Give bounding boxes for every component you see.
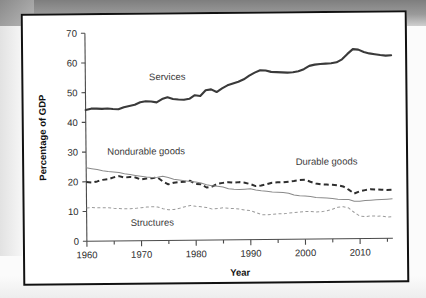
annotation-structures: Structures [131,217,175,228]
annotation-services: Services [149,71,186,82]
y-tick-label: 0 [74,236,79,247]
y-tick-label: 30 [67,147,78,158]
y-tick-label: 70 [66,28,77,39]
y-tick-label: 50 [67,87,78,98]
y-axis-title: Percentage of GDP [36,94,48,181]
figure-frame: 010203040506070 196019701980199020002010… [21,10,410,286]
y-tick-label: 40 [67,117,78,128]
x-tick-label: 1960 [76,249,97,260]
data-series-group [85,49,393,220]
annotation-durable-goods: Durable goods [296,155,358,167]
x-tick-label: 2000 [295,247,316,258]
y-tick-label: 60 [67,57,78,68]
series-line-nondurable-goods [86,165,392,204]
x-tick-label: 1990 [240,248,261,259]
x-axis-ticks: 196019701980199020002010 [76,238,387,260]
chart-plot-area: 010203040506070 196019701980199020002010… [23,12,408,284]
y-tick-label: 10 [68,206,79,217]
y-axis-ticks: 010203040506070 [66,28,87,247]
y-tick-label: 20 [68,176,79,187]
x-axis-title: Year [230,267,250,278]
y-axis-line [85,33,87,241]
x-tick-label: 1980 [186,248,207,259]
x-axis-line [87,238,393,241]
series-line-services [85,49,392,110]
x-tick-label: 2010 [350,247,371,258]
annotation-nondurable-goods: Nondurable goods [107,145,185,157]
series-annotations: ServicesNondurable goodsDurable goodsStr… [107,69,359,228]
x-tick-label: 1970 [131,249,152,260]
scan-shadow-left-lower [0,26,22,256]
axes-group [85,30,393,241]
series-line-durable-goods [86,174,392,197]
line-chart: 010203040506070 196019701980199020002010… [23,12,408,284]
